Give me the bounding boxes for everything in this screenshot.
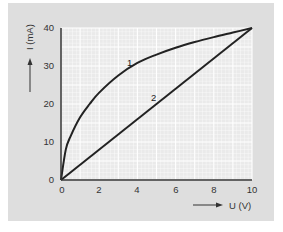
- y-tick-20: 20: [43, 98, 54, 109]
- curve-1-label: 1: [127, 57, 132, 68]
- chart: 0 10 20 30 40 0 2 4 6 8 10 1 2 I (mA) U …: [0, 0, 283, 232]
- curve-2-label: 2: [151, 92, 156, 103]
- x-tick-2: 2: [96, 184, 101, 195]
- x-axis-label-group: U (V): [193, 200, 251, 211]
- right-arrow-icon: [216, 203, 223, 208]
- y-tick-10: 10: [43, 136, 54, 147]
- x-tick-10: 10: [247, 184, 258, 195]
- x-tick-0: 0: [59, 184, 64, 195]
- y-tick-40: 40: [43, 22, 54, 33]
- x-tick-6: 6: [173, 184, 178, 195]
- x-axis-label: U (V): [229, 200, 251, 211]
- y-tick-30: 30: [43, 60, 54, 71]
- y-axis-label: I (mA): [24, 24, 35, 50]
- x-tick-8: 8: [211, 184, 216, 195]
- y-axis-label-group: I (mA): [24, 24, 35, 92]
- x-tick-4: 4: [134, 184, 139, 195]
- up-arrow-icon: [28, 58, 33, 65]
- y-tick-0: 0: [49, 174, 54, 185]
